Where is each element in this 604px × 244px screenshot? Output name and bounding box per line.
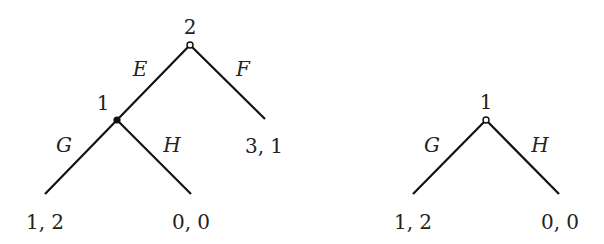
inner-player-label: 1 <box>97 91 110 115</box>
decision-node-filled <box>113 116 120 123</box>
action-label-H: H <box>162 133 181 157</box>
edge-F <box>190 45 265 119</box>
right-payoff-G: 1, 2 <box>394 210 432 234</box>
root-node-hollow <box>187 42 193 48</box>
edge-E <box>117 45 190 120</box>
edge-H-right <box>486 120 559 194</box>
payoff-G: 1, 2 <box>26 210 64 234</box>
right-root-node-hollow <box>483 117 489 123</box>
game-tree-diagram: 2 1 E F G H 1, 2 0, 0 3, 1 1 G H 1, 2 0,… <box>0 0 604 244</box>
payoff-F: 3, 1 <box>245 134 283 158</box>
payoff-H: 0, 0 <box>172 210 210 234</box>
right-action-label-G: G <box>424 133 440 157</box>
action-label-E: E <box>132 57 148 81</box>
edge-H <box>117 120 191 194</box>
right-tree: 1 G H 1, 2 0, 0 <box>394 90 579 234</box>
edge-G <box>45 120 117 194</box>
right-action-label-H: H <box>530 133 549 157</box>
action-label-F: F <box>235 57 251 81</box>
right-payoff-H: 0, 0 <box>541 210 579 234</box>
action-label-G: G <box>56 133 72 157</box>
root-player-label: 2 <box>184 15 197 39</box>
right-root-player-label: 1 <box>480 90 493 114</box>
left-tree: 2 1 E F G H 1, 2 0, 0 3, 1 <box>26 15 283 234</box>
edge-G-right <box>413 120 486 194</box>
